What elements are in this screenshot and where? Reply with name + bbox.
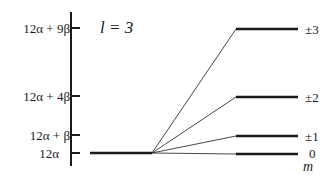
energy-label-12a-9b: 12α + 9β bbox=[23, 22, 70, 35]
energy-label-12a: 12α bbox=[39, 147, 59, 160]
m-label-pm3: ±3 bbox=[305, 23, 319, 36]
diagram-title: l = 3 bbox=[100, 19, 133, 36]
m-label-pm2: ±2 bbox=[305, 91, 319, 104]
energy-label-12a-b: 12α + β bbox=[30, 129, 70, 142]
energy-label-12a-4b: 12α + 4β bbox=[23, 90, 70, 103]
connector-pm3 bbox=[152, 29, 236, 153]
m-label-pm1: ±1 bbox=[305, 130, 319, 143]
axis-label-m: m bbox=[303, 160, 313, 174]
connector-0 bbox=[152, 153, 236, 154]
